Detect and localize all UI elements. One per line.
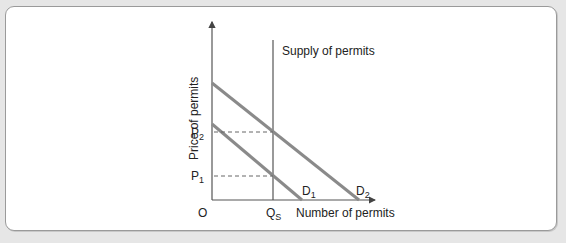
origin-label: O <box>198 206 207 220</box>
p1-label: P1 <box>191 169 204 185</box>
p2-label: P2 <box>191 126 204 142</box>
permit-market-diagram: Price of permits Supply of permits P2 P1… <box>0 0 566 243</box>
demand-curve-d1 <box>212 124 302 200</box>
d1-label: D1 <box>302 184 316 200</box>
d2-label: D2 <box>356 184 370 200</box>
y-axis-label: Price of permits <box>187 77 201 160</box>
qs-label: QS <box>266 206 281 222</box>
supply-label: Supply of permits <box>282 44 375 58</box>
x-axis-label: Number of permits <box>296 206 395 220</box>
